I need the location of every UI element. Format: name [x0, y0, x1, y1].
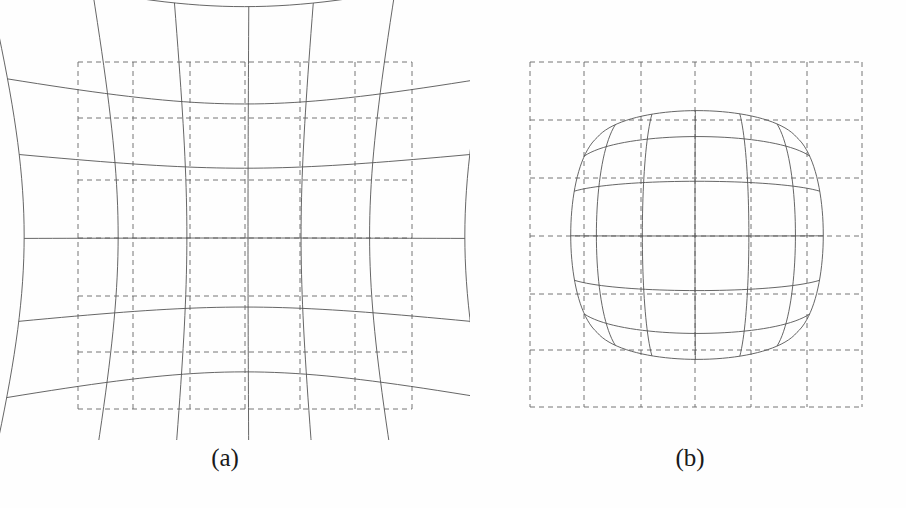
panel-a-caption: (a)	[0, 444, 460, 472]
barrel-distortion-grid	[470, 0, 906, 440]
distorted-grid-line	[0, 0, 24, 440]
panel-pincushion-distortion: (a)	[0, 0, 470, 508]
distorted-grid-line	[0, 0, 470, 7]
distorted-grid-line	[574, 181, 819, 191]
distorted-grid-line	[642, 114, 652, 356]
distorted-grid-line	[584, 314, 809, 333]
distorted-grid-line	[7, 372, 470, 398]
distorted-grid-line	[740, 114, 749, 356]
distorted-grid-line	[777, 124, 795, 346]
distorted-grid-line	[575, 280, 820, 290]
distorted-grid-line	[797, 138, 823, 333]
pincushion-distortion-grid	[0, 0, 470, 440]
distorted-grid-line	[19, 307, 470, 321]
distorted-grid-line	[596, 125, 615, 346]
figure-page: (a) (b)	[0, 0, 906, 508]
distorted-grid-line	[597, 111, 797, 138]
distorted-grid-line	[597, 332, 797, 359]
distorted-grid-line	[370, 0, 395, 440]
distorted-grid-line	[248, 7, 249, 440]
panel-barrel-distortion: (b)	[470, 0, 906, 508]
distorted-grid-line	[19, 155, 470, 169]
distorted-grid-line	[584, 137, 809, 156]
distorted-grid-line	[93, 0, 119, 440]
distorted-grid-line	[8, 79, 470, 104]
panel-b-caption: (b)	[472, 444, 906, 472]
